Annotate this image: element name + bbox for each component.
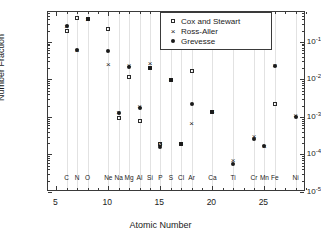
y-tick-minor <box>302 125 304 126</box>
data-point <box>86 17 90 21</box>
y-tick-minor <box>302 16 304 17</box>
data-point <box>117 111 121 115</box>
data-point <box>179 142 183 146</box>
data-point <box>190 102 194 106</box>
y-tick-minor <box>48 121 50 122</box>
x-tick-minor <box>296 12 297 14</box>
x-tick-minor <box>98 12 99 14</box>
x-tick-label: 25 <box>259 197 268 207</box>
y-tick-minor <box>48 137 50 138</box>
y-tick-minor <box>302 24 304 25</box>
data-point <box>75 16 79 20</box>
y-tick-minor <box>48 119 50 120</box>
element-label-ne: Ne <box>104 174 112 181</box>
legend-marker-icon <box>165 16 181 26</box>
x-tick-major <box>108 186 109 190</box>
x-tick-major <box>212 186 213 190</box>
x-tick-minor <box>98 188 99 190</box>
element-label-si: Si <box>147 174 153 181</box>
x-tick-minor <box>150 188 151 190</box>
element-label-fe: Fe <box>271 174 279 181</box>
x-tick-minor <box>150 12 151 14</box>
x-tick-major <box>56 186 57 190</box>
y-tick-minor <box>48 143 50 144</box>
y-tick-minor <box>48 88 50 89</box>
x-tick-minor <box>140 188 141 190</box>
gridline-mg <box>129 12 130 190</box>
x-tick-label: 5 <box>53 197 58 207</box>
legend-box: Cox and StewartRoss-AllerGrevesse <box>160 12 272 50</box>
y-tick-minor <box>48 45 50 46</box>
y-tick-label: 10-5 <box>280 186 321 197</box>
element-label-s: S <box>169 174 173 181</box>
gridline-si <box>150 12 151 190</box>
gridline-n <box>77 12 78 190</box>
y-tick-minor <box>48 16 50 17</box>
y-axis-title: Number Fraction <box>0 34 6 101</box>
x-tick-minor <box>129 12 130 14</box>
y-tick-label: 10-2 <box>280 73 321 84</box>
y-tick-minor <box>302 163 304 164</box>
x-tick-minor <box>223 188 224 190</box>
x-tick-minor <box>181 188 182 190</box>
y-tick-minor <box>302 181 304 182</box>
y-tick-minor <box>302 13 304 14</box>
data-point <box>169 78 173 82</box>
gridline-na <box>119 12 120 190</box>
y-tick-minor <box>48 83 50 84</box>
data-point <box>190 69 194 73</box>
legend-item-2: Ross-Aller <box>165 26 267 36</box>
y-tick-minor <box>48 156 50 157</box>
y-tick-minor <box>48 181 50 182</box>
element-label-c: C <box>64 174 69 181</box>
data-point <box>148 66 152 70</box>
y-tick-minor <box>302 143 304 144</box>
x-tick-minor <box>67 12 68 14</box>
y-tick-minor <box>48 61 50 62</box>
x-tick-major <box>56 12 57 16</box>
x-tick-label: 15 <box>155 197 164 207</box>
y-tick-minor <box>302 174 304 175</box>
y-tick-minor <box>48 174 50 175</box>
y-tick-minor <box>48 48 50 49</box>
legend-label: Ross-Aller <box>181 27 218 36</box>
y-tick-minor <box>302 137 304 138</box>
y-tick-minor <box>302 106 304 107</box>
y-tick-minor <box>302 53 304 54</box>
y-tick-minor <box>302 91 304 92</box>
y-tick-minor <box>48 19 50 20</box>
x-tick-label: 10 <box>103 197 112 207</box>
y-tick-minor <box>48 44 50 45</box>
data-point <box>210 110 214 114</box>
x-tick-minor <box>67 188 68 190</box>
x-tick-minor <box>202 188 203 190</box>
scatter-plot-figure: CNONeNaMgAlSiPSClArCaTiCrMnFeNi 10-110-2… <box>0 0 321 238</box>
data-point <box>138 119 142 123</box>
y-tick-minor <box>48 158 50 159</box>
data-point <box>65 24 69 28</box>
y-tick-minor <box>48 169 50 170</box>
legend-marker-icon <box>165 36 181 46</box>
y-tick-minor <box>48 50 50 51</box>
y-tick-label: 10-1 <box>280 35 321 46</box>
y-tick-minor <box>48 31 50 32</box>
y-tick-minor <box>302 123 304 124</box>
data-point <box>231 162 235 166</box>
element-label-n: N <box>75 174 80 181</box>
y-tick-minor <box>302 48 304 49</box>
filled-dot-icon <box>171 39 175 43</box>
element-label-cr: Cr <box>251 174 258 181</box>
y-tick-minor <box>48 132 50 133</box>
x-tick-minor <box>119 12 120 14</box>
x-axis-title: Atomic Number <box>0 220 321 230</box>
y-tick-minor <box>302 88 304 89</box>
y-tick-minor <box>48 125 50 126</box>
gridline-ne <box>108 12 109 190</box>
y-tick-minor <box>48 57 50 58</box>
element-label-ca: Ca <box>208 174 216 181</box>
y-tick-minor <box>302 169 304 170</box>
data-point <box>273 102 277 106</box>
y-tick-minor <box>48 24 50 25</box>
x-tick-minor <box>275 12 276 14</box>
x-tick-minor <box>88 188 89 190</box>
